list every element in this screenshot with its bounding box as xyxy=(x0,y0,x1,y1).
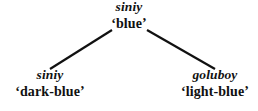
node-root-term: siniy xyxy=(111,0,147,15)
lexical-tree-figure: siniy ‘blue’ siniy ‘dark-blue’ goluboy ‘… xyxy=(0,0,258,111)
node-right-term: goluboy xyxy=(181,68,249,83)
edge-root-to-left xyxy=(50,30,112,69)
node-root-gloss: ‘blue’ xyxy=(111,16,147,31)
node-left-gloss: ‘dark-blue’ xyxy=(15,84,85,99)
node-right-gloss: ‘light-blue’ xyxy=(181,84,249,99)
tree-node-left-child: siniy ‘dark-blue’ xyxy=(15,68,85,99)
tree-node-root: siniy ‘blue’ xyxy=(111,0,147,31)
edge-root-to-right xyxy=(147,30,215,69)
node-left-term: siniy xyxy=(15,68,85,83)
tree-node-right-child: goluboy ‘light-blue’ xyxy=(181,68,249,99)
